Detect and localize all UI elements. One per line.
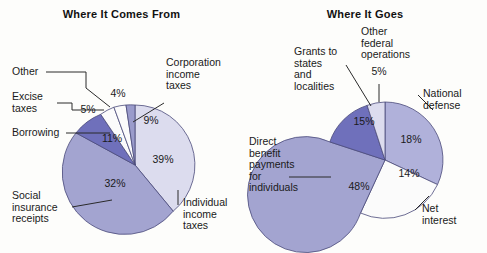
label-national-defense: Nationaldefense (423, 88, 462, 111)
leader-line-grants (346, 65, 371, 106)
value-other: 4% (110, 87, 125, 99)
label-social-insurance-receipts: Socialinsurancereceipts (12, 190, 58, 225)
value-grants: 15% (353, 115, 374, 127)
chart-panel-where-it-goes: Where It Goes 5% 15% 18% 14% 48% Grants … (243, 0, 487, 253)
chart-panel-where-it-comes-from: Where It Comes From 4% 5% 9% 11% 32% 39%… (0, 0, 243, 253)
value-net-interest: 14% (398, 167, 419, 179)
label-corporation-income-taxes: Corporationincometaxes (166, 57, 221, 92)
leader-line-other (46, 72, 110, 107)
label-net-interest: Netinterest (422, 203, 456, 226)
value-social-insurance: 32% (104, 177, 125, 189)
label-individual-income-taxes: Individualincometaxes (183, 197, 227, 232)
value-direct-benefit: 48% (348, 180, 369, 192)
value-other-federal: 5% (371, 65, 386, 77)
label-grants-to-states-and-localities: Grants tostatesandlocalities (294, 46, 337, 92)
label-other-federal-operations: Otherfederaloperations (361, 26, 410, 61)
label-direct-benefit-payments: Directbenefitpaymentsforindividuals (249, 136, 298, 194)
value-individual: 39% (152, 153, 173, 165)
label-other: Other (12, 66, 38, 78)
value-excise-taxes: 5% (80, 103, 95, 115)
value-national-defense: 18% (400, 133, 421, 145)
label-excise-taxes: Excisetaxes (12, 91, 43, 114)
value-borrowing: 11% (102, 132, 122, 144)
label-borrowing: Borrowing (12, 127, 59, 139)
value-corporation: 9% (143, 114, 158, 126)
